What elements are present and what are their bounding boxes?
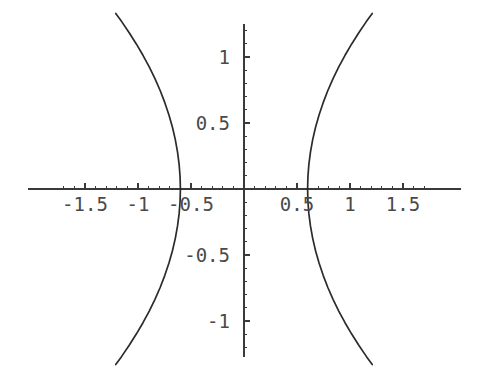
hyperbola-plot: -1.5-1-0.50.511.5 -1-0.50.51 (0, 0, 487, 379)
plot-canvas: -1.5-1-0.50.511.5 -1-0.50.51 (0, 0, 487, 379)
y-tick-label: 1 (219, 46, 230, 68)
x-tick-label: -0.5 (168, 193, 214, 215)
y-tick-label: -1 (207, 310, 230, 332)
x-tick-label: 0.5 (280, 193, 314, 215)
x-tick-label: 1 (344, 193, 355, 215)
x-tick-label: -1.5 (62, 193, 108, 215)
y-tick-label: 0.5 (196, 112, 230, 134)
y-tick-label: -0.5 (184, 244, 230, 266)
x-tick-label: 1.5 (386, 193, 420, 215)
x-tick-label: -1 (127, 193, 150, 215)
